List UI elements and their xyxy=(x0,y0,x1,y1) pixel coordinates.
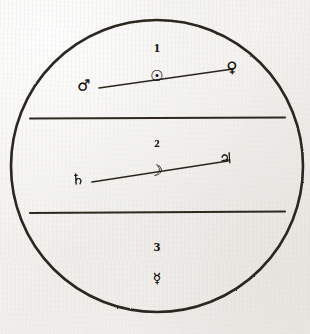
upper-divider-line xyxy=(30,118,285,119)
band-2-numeral: 2 xyxy=(154,138,160,149)
venus-icon: ♀ xyxy=(226,60,238,76)
saturn-icon: ♄ xyxy=(71,172,85,188)
band-1-connector xyxy=(99,69,233,88)
moon-icon: ☽ xyxy=(148,163,163,180)
jupiter-icon: ♃ xyxy=(219,151,233,167)
mars-icon: ♂ xyxy=(77,78,91,94)
band-3-numeral: 3 xyxy=(154,240,161,253)
diagram-page: 1 ♂ ☉ ♀ 2 ♄ ☽ ♃ 3 ☿ xyxy=(0,0,310,334)
sun-icon: ☉ xyxy=(150,69,163,84)
band-1-numeral: 1 xyxy=(154,42,160,54)
mercury-icon: ☿ xyxy=(153,271,162,285)
lower-divider-line xyxy=(30,212,285,214)
